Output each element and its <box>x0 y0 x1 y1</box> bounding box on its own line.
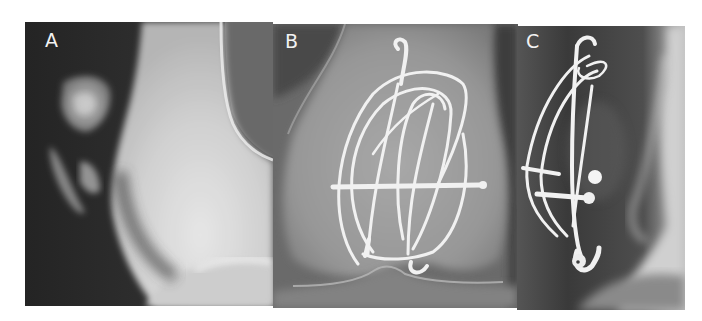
screw-head-1 <box>583 192 595 204</box>
panel-b-image <box>273 24 518 308</box>
panel-a-lateral-radiograph: A <box>25 22 273 306</box>
screw-head-2 <box>588 170 602 184</box>
panel-b-ap-radiograph: B <box>273 24 518 308</box>
radiograph-figure: A <box>0 0 702 321</box>
panel-label-a: A <box>45 31 58 50</box>
panel-c-lateral-radiograph: C <box>517 26 685 310</box>
panel-label-b: B <box>285 32 298 51</box>
panel-c-image <box>517 26 685 310</box>
panel-a-image <box>25 22 273 306</box>
panel-label-c: C <box>526 32 539 51</box>
